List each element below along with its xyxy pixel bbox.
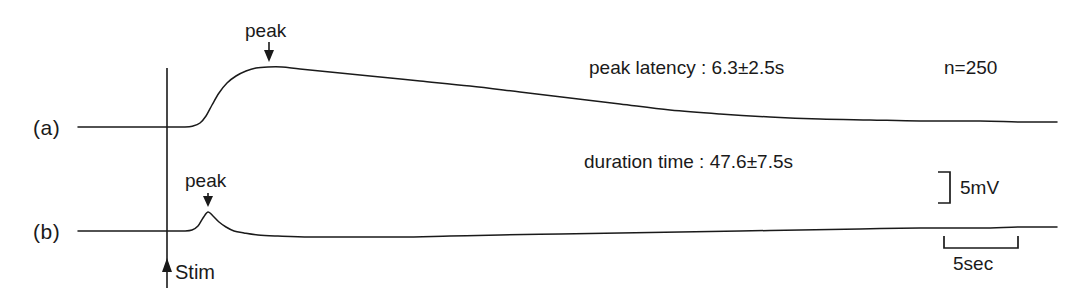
peak-label-b: peak	[185, 171, 226, 190]
trace-canvas	[0, 0, 1091, 297]
trace-a-curve	[78, 67, 1057, 127]
stimulus-arrow-icon	[162, 258, 172, 272]
scale-label-time: 5sec	[953, 254, 993, 273]
trace-b-curve	[78, 212, 1057, 237]
stimulus-label: Stim	[175, 262, 215, 282]
electrophysiology-figure: (a) (b) peak peak Stim peak latency : 6.…	[0, 0, 1091, 297]
scale-bar-horizontal	[944, 236, 1018, 248]
scale-bar-vertical	[938, 172, 950, 203]
peak-label-a: peak	[245, 21, 286, 40]
duration-time-annotation: duration time : 47.6±7.5s	[584, 152, 793, 171]
peak-latency-annotation: peak latency : 6.3±2.5s	[589, 58, 784, 77]
peak-arrow-b-icon	[203, 193, 213, 207]
sample-count-annotation: n=250	[944, 58, 997, 77]
trace-label-b: (b)	[33, 221, 60, 242]
peak-arrow-a-icon	[264, 42, 274, 62]
trace-label-a: (a)	[33, 117, 60, 138]
scale-label-voltage: 5mV	[960, 178, 999, 197]
